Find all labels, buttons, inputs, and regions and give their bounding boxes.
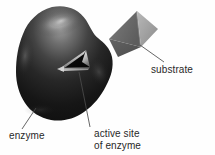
label-enzyme: enzyme <box>9 130 45 142</box>
label-active-site-line1: active site <box>94 128 140 139</box>
leader-line-substrate <box>140 45 164 62</box>
enzyme-substrate-figure: enzyme substrate active site of enzyme <box>0 0 215 155</box>
enzyme-lower-left-bounce <box>24 104 56 116</box>
label-substrate: substrate <box>151 64 193 76</box>
enzyme-blob <box>14 4 114 120</box>
substrate-pyramid <box>109 11 158 57</box>
label-active-site: active site of enzyme <box>94 128 141 151</box>
label-active-site-line2: of enzyme <box>94 140 141 152</box>
